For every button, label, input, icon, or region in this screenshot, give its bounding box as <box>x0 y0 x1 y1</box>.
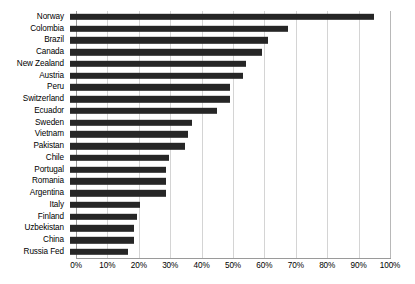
bar-track <box>70 11 390 23</box>
bar-track <box>70 23 390 35</box>
bar-rows: NorwayColombiaBrazilCanadaNew ZealandAus… <box>6 11 390 258</box>
bar-track <box>70 199 390 211</box>
bar <box>70 96 230 102</box>
bar-row: Ecuador <box>6 105 390 117</box>
bar <box>70 37 268 43</box>
bar-row: Portugal <box>6 164 390 176</box>
bar-track <box>70 234 390 246</box>
bar-track <box>70 211 390 223</box>
bar-row: Argentina <box>6 187 390 199</box>
category-label: New Zealand <box>6 60 70 68</box>
bar-track <box>70 140 390 152</box>
bar-row: Switzerland <box>6 93 390 105</box>
bar-row: Pakistan <box>6 140 390 152</box>
category-label: Chile <box>6 154 70 162</box>
category-label: Vietnam <box>6 130 70 138</box>
bar <box>70 202 140 208</box>
bar-row: Finland <box>6 211 390 223</box>
x-axis-line <box>76 258 391 259</box>
plot-area: NorwayColombiaBrazilCanadaNew ZealandAus… <box>0 0 415 284</box>
bar <box>70 143 185 149</box>
bar-track <box>70 82 390 94</box>
bar-track <box>70 105 390 117</box>
bar <box>70 225 134 231</box>
bar-row: China <box>6 234 390 246</box>
bar-row: Vietnam <box>6 129 390 141</box>
bar-track <box>70 223 390 235</box>
bar-row: Romania <box>6 176 390 188</box>
category-label: Italy <box>6 201 70 209</box>
bar <box>70 108 217 114</box>
bar-track <box>70 58 390 70</box>
bar-row: Austria <box>6 70 390 82</box>
bar-row: Russia Fed <box>6 246 390 258</box>
x-tick-label: 90% <box>351 261 367 270</box>
category-label: China <box>6 236 70 244</box>
bar <box>70 49 262 55</box>
bar-track <box>70 93 390 105</box>
bar-row: Colombia <box>6 23 390 35</box>
bar-chart: NorwayColombiaBrazilCanadaNew ZealandAus… <box>0 0 415 284</box>
bar <box>70 131 188 137</box>
category-label: Uzbekistan <box>6 224 70 232</box>
x-tick-label: 100% <box>380 261 401 270</box>
category-label: Peru <box>6 83 70 91</box>
bar <box>70 25 288 31</box>
x-tick-label: 70% <box>288 261 304 270</box>
bar <box>70 190 166 196</box>
x-axis-tick-labels: 0%10%20%30%40%50%60%70%80%90%100% <box>76 261 390 275</box>
bar <box>70 72 243 78</box>
category-label: Finland <box>6 213 70 221</box>
bar-row: Peru <box>6 82 390 94</box>
category-label: Brazil <box>6 36 70 44</box>
bar <box>70 61 246 67</box>
bar <box>70 84 230 90</box>
bar <box>70 249 128 255</box>
bar-row: Brazil <box>6 35 390 47</box>
bar-track <box>70 46 390 58</box>
category-label: Canada <box>6 48 70 56</box>
bar <box>70 178 166 184</box>
x-tick-label: 10% <box>99 261 115 270</box>
bar-track <box>70 129 390 141</box>
category-label: Argentina <box>6 189 70 197</box>
bar <box>70 14 374 20</box>
x-tick-label: 20% <box>131 261 147 270</box>
category-label: Ecuador <box>6 107 70 115</box>
x-tick-label: 60% <box>256 261 272 270</box>
bar-track <box>70 70 390 82</box>
category-label: Norway <box>6 13 70 21</box>
category-label: Switzerland <box>6 95 70 103</box>
category-label: Romania <box>6 177 70 185</box>
category-label: Sweden <box>6 119 70 127</box>
bar-row: Canada <box>6 46 390 58</box>
bar-track <box>70 164 390 176</box>
bar <box>70 213 137 219</box>
bar-track <box>70 35 390 47</box>
category-label: Russia Fed <box>6 248 70 256</box>
category-label: Colombia <box>6 25 70 33</box>
bar-track <box>70 117 390 129</box>
gridline-100pct <box>390 11 391 258</box>
x-tick-label: 50% <box>225 261 241 270</box>
bar <box>70 119 192 125</box>
bar-track <box>70 152 390 164</box>
category-label: Pakistan <box>6 142 70 150</box>
x-tick-label: 40% <box>194 261 210 270</box>
category-label: Portugal <box>6 166 70 174</box>
bar-row: Sweden <box>6 117 390 129</box>
bar-row: New Zealand <box>6 58 390 70</box>
bar-track <box>70 176 390 188</box>
bar-track <box>70 187 390 199</box>
x-tick-label: 80% <box>319 261 335 270</box>
bar <box>70 155 169 161</box>
bar-row: Norway <box>6 11 390 23</box>
x-tick-label: 0% <box>70 261 82 270</box>
x-tick-label: 30% <box>162 261 178 270</box>
bar-row: Chile <box>6 152 390 164</box>
bar <box>70 237 134 243</box>
category-label: Austria <box>6 72 70 80</box>
bar <box>70 166 166 172</box>
bar-track <box>70 246 390 258</box>
bar-row: Italy <box>6 199 390 211</box>
